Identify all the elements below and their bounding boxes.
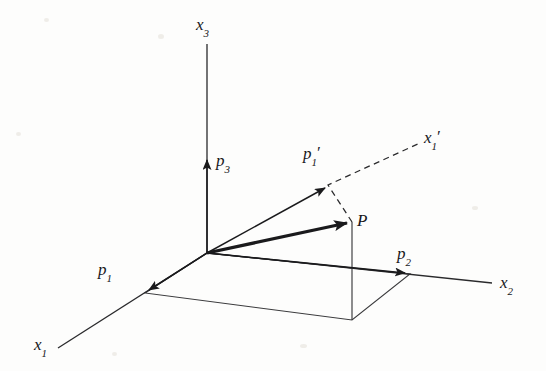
vector-p1-prime (207, 188, 325, 253)
label-x2-sub: 2 (508, 285, 514, 297)
label-x1: x1 (34, 336, 47, 353)
axis-x1-prime-dashed (328, 143, 420, 222)
prime-mark: ′ (316, 143, 320, 162)
label-p1-prime: p1′ (303, 145, 321, 162)
label-x3-sub: 3 (204, 27, 210, 39)
label-x2: x2 (500, 274, 513, 291)
label-p1-prime-base: p (303, 144, 312, 163)
label-p2: p2 (397, 245, 411, 262)
label-p2-sub: 2 (406, 256, 412, 268)
label-x1-sub: 1 (42, 347, 48, 359)
label-x1-prime-base: x (424, 128, 432, 147)
label-x2-base: x (500, 273, 508, 292)
label-x3-base: x (196, 15, 204, 34)
label-point-P-base: P (357, 211, 367, 230)
figure-canvas: x3 x1 x2 x1′ p3 p1 p2 p1′ P (0, 0, 546, 371)
label-point-P: P (357, 212, 367, 229)
label-p2-base: p (397, 244, 406, 263)
scan-speck (112, 352, 117, 356)
vector-P (207, 223, 347, 253)
label-x1-base: x (34, 335, 42, 354)
label-p3-base: p (216, 151, 225, 170)
scan-speck (16, 132, 21, 136)
vector-p2 (207, 253, 405, 273)
label-x3: x3 (196, 16, 209, 33)
label-p3: p3 (216, 152, 230, 169)
scan-speck (44, 18, 49, 22)
label-p1-sub: 1 (107, 272, 113, 284)
scan-speck (472, 206, 478, 210)
diagram-svg (0, 0, 546, 371)
label-p3-sub: 3 (225, 163, 231, 175)
scan-speck (300, 344, 307, 348)
label-p1-base: p (98, 260, 107, 279)
vector-p1 (149, 253, 207, 290)
prime-mark: ′ (436, 127, 440, 146)
scan-speck (158, 34, 164, 39)
label-p1: p1 (98, 261, 112, 278)
label-x1-prime: x1′ (424, 129, 441, 146)
base-parallelogram (145, 253, 410, 320)
